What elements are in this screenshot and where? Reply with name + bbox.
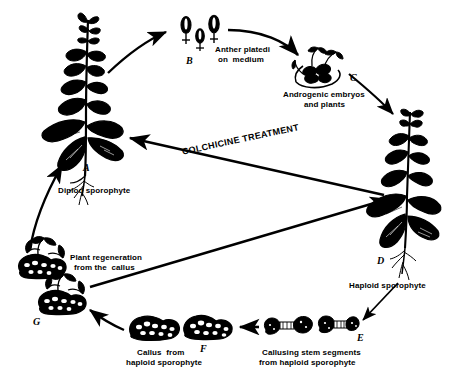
stage-caption-g-line2: from the callus bbox=[74, 263, 135, 273]
arrow-g-to-d bbox=[90, 199, 388, 287]
stage-letter-a: A bbox=[83, 163, 90, 173]
stage-letter-b: B bbox=[186, 56, 193, 66]
stage-caption-b-line1: Anther platedi bbox=[215, 45, 270, 55]
stage-caption-f-line1: Callus from bbox=[137, 348, 184, 358]
stage-caption-c-line1: Androgenic embryos bbox=[283, 90, 365, 100]
stage-caption-f-line2: haploid sporophyte bbox=[126, 358, 202, 368]
stage-caption-d: Haploid sporophyte bbox=[349, 281, 426, 291]
stage-letter-d: D bbox=[377, 256, 384, 266]
stage-letter-c: C bbox=[350, 73, 357, 83]
arrow-d-to-a-colchicine bbox=[130, 138, 384, 195]
stage-f-callus-illustration bbox=[130, 315, 233, 340]
stage-e-callusing-stem-segment-illustration bbox=[264, 316, 359, 334]
stage-caption-c-line2: and plants bbox=[304, 100, 345, 110]
stage-letter-e: E bbox=[357, 333, 364, 343]
stage-letter-g: G bbox=[33, 317, 40, 327]
stage-c-androgenic-embryo-illustration bbox=[292, 47, 343, 88]
stage-a-plant-illustration bbox=[42, 13, 123, 205]
stage-caption-e-line1: Callusing stem segments bbox=[262, 348, 361, 358]
anther-culture-cycle-diagram: A Diplod sporophyte B Anther platedi on … bbox=[0, 0, 454, 388]
stage-caption-g-line1: Plant regeneration bbox=[70, 253, 142, 263]
arrow-f-to-g bbox=[90, 310, 124, 330]
stage-letter-f: F bbox=[200, 344, 207, 354]
stage-caption-b-line2: on medium bbox=[218, 55, 264, 65]
stage-caption-e-line2: from haploid sporophyte bbox=[259, 358, 356, 368]
arrow-a-to-b bbox=[108, 32, 166, 73]
stage-caption-a: Diplod sporophyte bbox=[58, 186, 130, 196]
stage-g-plant-regeneration-illustration bbox=[19, 237, 87, 315]
stage-b-anther-illustration bbox=[181, 15, 219, 51]
